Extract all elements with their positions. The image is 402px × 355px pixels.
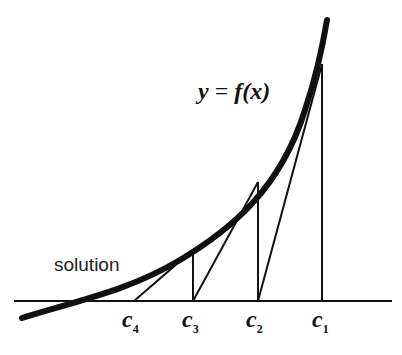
tangent-3: [134, 250, 193, 301]
newton-method-diagram: y = f(x) solution c4 c3 c2 c1: [0, 0, 402, 355]
tangent-2: [193, 182, 258, 301]
curve-label: y = f(x): [198, 78, 270, 105]
tick-label-c3: c3: [182, 306, 199, 337]
tick-label-c1: c1: [312, 306, 329, 337]
tick-label-c4: c4: [122, 306, 139, 337]
tick-label-c2: c2: [246, 306, 263, 337]
diagram-canvas: [0, 0, 402, 355]
solution-label: solution: [54, 254, 120, 276]
